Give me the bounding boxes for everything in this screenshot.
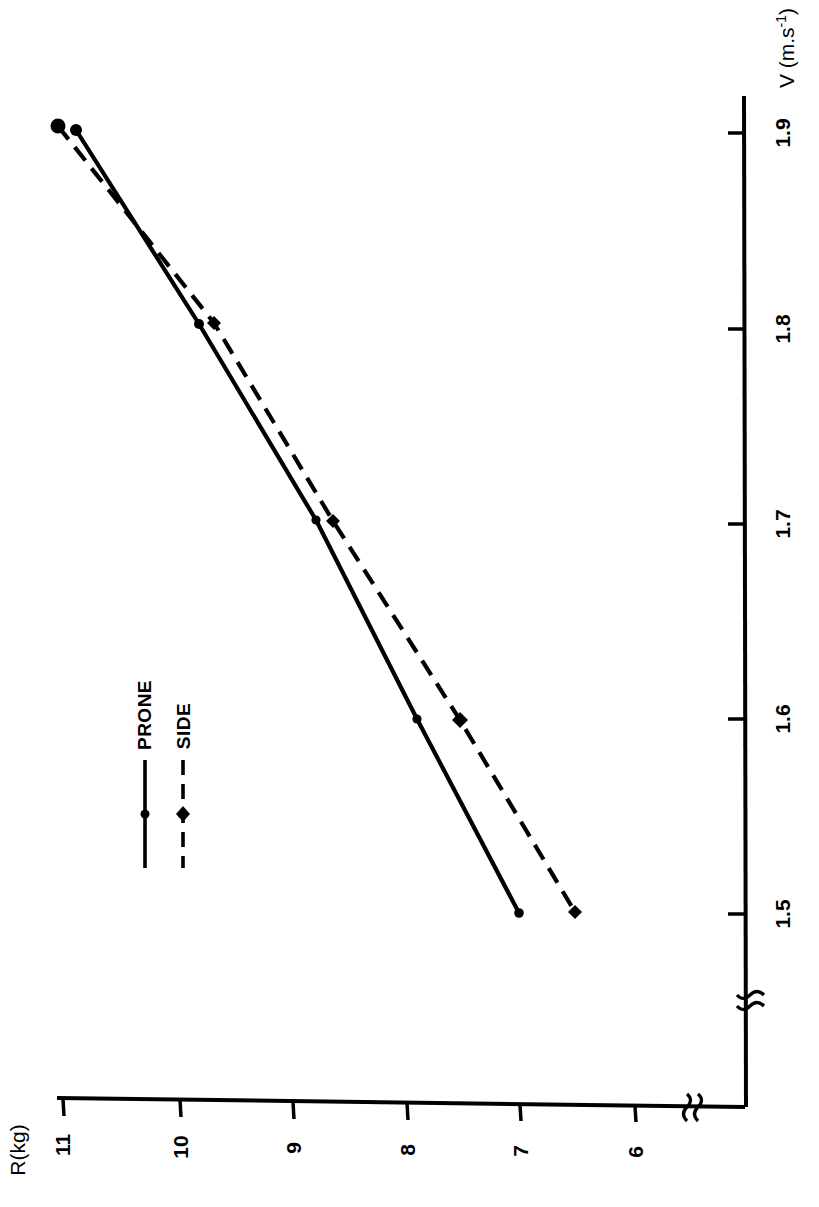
r-axis-tick-label: 7	[509, 1145, 533, 1157]
r-axis-tick-label: 11	[51, 1134, 75, 1156]
legend-label-prone: PRONE	[134, 680, 156, 750]
v-axis-tick-label: 1.7	[771, 509, 795, 538]
legend-key-side	[176, 760, 190, 868]
v-axis-tick-label: 1.8	[771, 314, 795, 343]
v-axis-title-exponent: -1	[773, 15, 789, 27]
legend-label-side: SIDE	[173, 703, 195, 749]
r-axis-title: R(kg)	[6, 1124, 30, 1175]
v-axis-break-icon	[737, 992, 764, 1010]
legend-key-prone	[141, 760, 150, 868]
v-axis-title: V (m.s-1)	[773, 8, 799, 88]
figure-canvas: 11 10 9 8 7 6 R(kg) 1.5 1.6 1.7 1.8 1.9 …	[0, 0, 819, 1207]
r-axis	[57, 1098, 745, 1122]
r-axis-tick-label: 6	[624, 1146, 648, 1158]
v-axis	[728, 96, 746, 1107]
r-axis-tick-label: 10	[169, 1135, 193, 1158]
r-axis-tick-label: 8	[396, 1144, 420, 1156]
plot-drawing	[0, 0, 819, 1207]
v-axis-title-text: V (m.s	[775, 27, 798, 88]
v-axis-tick-label: 1.9	[771, 118, 795, 147]
r-axis-tick-label: 9	[282, 1142, 306, 1154]
v-axis-tick-label: 1.6	[771, 704, 795, 733]
v-axis-title-suffix: )	[775, 8, 798, 15]
v-axis-tick-label: 1.5	[771, 899, 795, 928]
series-prone	[70, 124, 524, 918]
